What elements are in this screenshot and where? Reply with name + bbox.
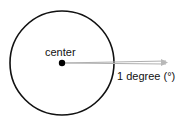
arrowhead-icon [161, 59, 168, 66]
ray-lower [62, 63, 166, 64]
center-dot [59, 60, 65, 66]
diagram-canvas [0, 0, 189, 125]
angle-label: 1 degree (°) [117, 70, 175, 82]
center-label: center [45, 46, 76, 58]
